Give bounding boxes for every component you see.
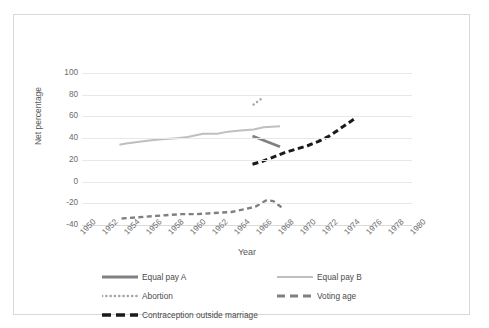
- legend-swatch-voting-age: [277, 291, 313, 301]
- gridline: [82, 138, 412, 139]
- gridline: [82, 95, 412, 96]
- gridline: [82, 203, 412, 204]
- legend-label-abortion: Abortion: [142, 292, 173, 300]
- legend-item-abortion[interactable]: Abortion: [102, 289, 173, 303]
- chart-frame: 100806040200-20-40 Net percentage 195019…: [13, 14, 470, 315]
- legend-label-equal-pay-b: Equal pay B: [317, 273, 362, 281]
- legend-swatch-abortion: [102, 291, 138, 301]
- gridline: [82, 116, 412, 117]
- legend-label-contraception-outside-marriage: Contraception outside marriage: [142, 311, 258, 319]
- y-axis-title: Net percentage: [33, 71, 43, 161]
- legend-item-voting-age[interactable]: Voting age: [277, 289, 356, 303]
- data-series-layer: [82, 73, 412, 225]
- series-line-equal-pay-b: [119, 126, 280, 144]
- gridline: [82, 73, 412, 74]
- legend-item-contraception-outside-marriage[interactable]: Contraception outside marriage: [102, 308, 258, 322]
- y-tick-label: 100: [64, 69, 78, 77]
- legend-swatch-contraception-outside-marriage: [102, 310, 138, 320]
- series-line-abortion: [254, 98, 263, 105]
- y-tick-label: -40: [66, 221, 78, 229]
- legend-item-equal-pay-b[interactable]: Equal pay B: [277, 270, 362, 284]
- y-tick-label: -20: [66, 199, 78, 207]
- chart-figure: 100806040200-20-40 Net percentage 195019…: [0, 0, 489, 328]
- plot-area: [82, 73, 412, 225]
- gridline: [82, 182, 412, 183]
- y-tick-label: 20: [69, 156, 78, 164]
- chart-legend: Equal pay AEqual pay BAbortionVoting age…: [102, 270, 442, 322]
- legend-swatch-equal-pay-a: [102, 272, 138, 282]
- gridline: [82, 160, 412, 161]
- y-tick-label: 80: [69, 91, 78, 99]
- y-tick-label: 60: [69, 112, 78, 120]
- y-tick-label: 0: [73, 178, 78, 186]
- legend-label-voting-age: Voting age: [317, 292, 356, 300]
- x-axis-title: Year: [82, 247, 412, 257]
- y-axis-tick-labels: 100806040200-20-40: [50, 73, 78, 225]
- legend-swatch-equal-pay-b: [277, 272, 313, 282]
- y-tick-label: 40: [69, 134, 78, 142]
- legend-item-equal-pay-a[interactable]: Equal pay A: [102, 270, 186, 284]
- legend-label-equal-pay-a: Equal pay A: [142, 273, 186, 281]
